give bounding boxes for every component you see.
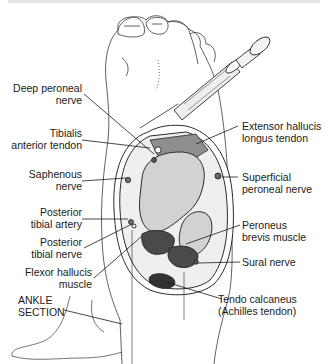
label-line: Sural nerve (242, 256, 296, 268)
syringe-icon (140, 34, 273, 128)
label-line: nerve (13, 94, 82, 106)
figure: Deep peroneal nerve Tibialis anterior te… (0, 0, 333, 364)
label-line: anterior tendon (11, 139, 82, 151)
label-line: tibial artery (31, 218, 82, 230)
label-line: Saphenous (29, 168, 82, 180)
label-line: Posterior (31, 206, 82, 218)
label-saphenous-nerve: Saphenous nerve (29, 168, 82, 192)
label-superficial-peroneal-nerve: Superficial peroneal nerve (242, 171, 312, 195)
label-line: peroneal nerve (242, 183, 312, 195)
label-line: Tendo calcaneus (218, 293, 297, 305)
label-line: tibial nerve (31, 248, 82, 260)
label-extensor-hallucis-longus-tendon: Extensor hallucis longus tendon (242, 120, 321, 144)
label-line: Extensor hallucis (242, 120, 321, 132)
label-sural-nerve: Sural nerve (242, 256, 296, 268)
label-deep-peroneal-nerve: Deep peroneal nerve (13, 82, 82, 106)
label-line: Tibialis (11, 127, 82, 139)
label-posterior-tibial-nerve: Posterior tibial nerve (31, 236, 82, 260)
label-line: (Achilles tendon) (218, 305, 297, 317)
label-tibialis-anterior-tendon: Tibialis anterior tendon (11, 127, 82, 151)
label-line: nerve (29, 180, 82, 192)
hand-outline (168, 21, 215, 64)
label-line: Superficial (242, 171, 312, 183)
label-ankle-section: ANKLE SECTION (18, 294, 65, 318)
label-line: SECTION (18, 306, 65, 318)
label-flexor-hallucis-muscle: Flexor hallucis muscle (25, 266, 92, 290)
label-peroneus-brevis-muscle: Peroneus brevis muscle (242, 219, 306, 243)
label-line: brevis muscle (242, 231, 306, 243)
label-line: Deep peroneal (13, 82, 82, 94)
label-line: muscle (25, 278, 92, 290)
label-line: Posterior (31, 236, 82, 248)
label-line: longus tendon (242, 132, 321, 144)
label-posterior-tibial-artery: Posterior tibial artery (31, 206, 82, 230)
label-line: Peroneus (242, 219, 306, 231)
label-line: Flexor hallucis (25, 266, 92, 278)
label-tendo-calcaneus: Tendo calcaneus (Achilles tendon) (218, 293, 297, 317)
label-line: ANKLE (18, 294, 65, 306)
